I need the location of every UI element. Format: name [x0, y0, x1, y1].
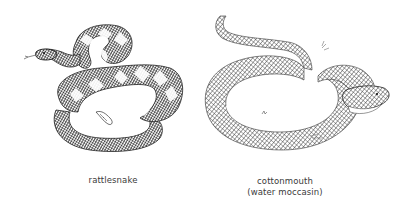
cottonmouth-caption-line1: cottonmouth	[235, 176, 335, 187]
snake-illustration	[0, 0, 411, 213]
cottonmouth-caption: cottonmouth (water moccasin)	[235, 176, 335, 198]
cottonmouth-drawing	[205, 16, 389, 150]
rattlesnake-caption-text: rattlesnake	[89, 175, 138, 185]
rattlesnake-drawing	[24, 25, 183, 152]
cottonmouth-caption-line2: (water moccasin)	[235, 187, 335, 198]
rattlesnake-caption: rattlesnake	[63, 175, 163, 186]
